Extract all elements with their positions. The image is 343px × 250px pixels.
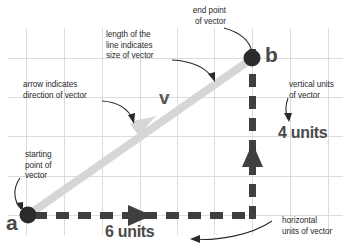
horizontal-units-value-label: 6 units [105,223,154,241]
point-b-label: b [265,44,278,65]
annotation-length: length of the line indicates size of vec… [106,30,176,62]
annotation-starting-point: starting point of vector [25,150,77,182]
annotation-horizontal-units: horizontal units of vector [282,216,343,237]
leader-horizontal-units [194,221,272,239]
leader-length [172,60,213,78]
annotation-vertical-units: vertical units of vector [289,80,343,101]
point-a-label: a [6,212,18,233]
leader-starting-point-arrowhead-icon [16,202,23,211]
leader-direction-arrowhead-icon [128,113,135,124]
leader-end-point [224,28,252,52]
vertical-arrowhead-icon [242,143,263,167]
vertical-units-value-label: 4 units [278,124,327,142]
leader-horizontal-units-arrowhead-icon [190,235,200,243]
vector-label: v [159,88,170,107]
annotation-end-point: end point of vector [160,6,226,27]
leader-direction [102,101,133,120]
annotation-direction: arrow indicates direction of vector [23,80,108,101]
vector-diagram-figure: end point of vector length of the line i… [0,0,343,250]
